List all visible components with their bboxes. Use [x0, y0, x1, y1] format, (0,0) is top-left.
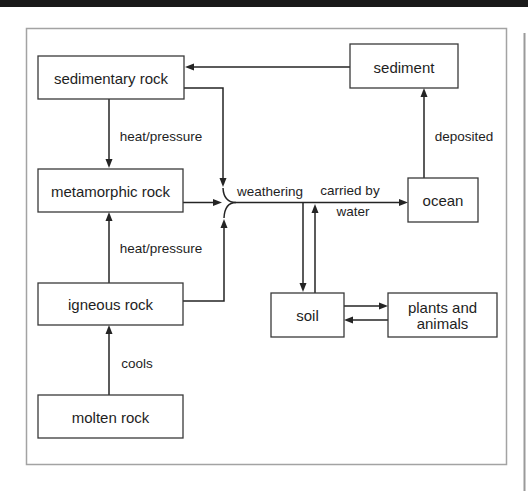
node-soil-label: soil — [296, 307, 319, 324]
arrow-plants-to-soil — [344, 317, 388, 324]
rock-cycle-diagram: heat/pressure heat/pressure cools weathe… — [0, 0, 528, 491]
node-soil: soil — [271, 293, 344, 337]
arrow-head — [106, 159, 113, 168]
arrow-head — [221, 219, 228, 228]
node-igneous-rock-label: igneous rock — [68, 296, 154, 313]
node-sedimentary-rock: sedimentary rock — [38, 56, 184, 99]
edge-label-carried-by: carried by — [320, 183, 380, 198]
node-igneous-rock: igneous rock — [38, 283, 183, 325]
node-metamorphic-rock-label: metamorphic rock — [51, 183, 171, 200]
node-molten-rock-label: molten rock — [72, 409, 150, 426]
edge-label-heat-pressure-top: heat/pressure — [120, 129, 203, 144]
arrow-head — [379, 303, 388, 310]
arrow-line — [183, 228, 224, 301]
arrow-head — [312, 204, 319, 213]
edge-label-weathering: weathering — [236, 184, 303, 199]
arrow-sedimentary-to-metamorphic — [106, 99, 113, 168]
rock-cycle-diagram-page: heat/pressure heat/pressure cools weathe… — [0, 0, 528, 491]
node-sedimentary-rock-label: sedimentary rock — [54, 70, 169, 87]
node-ocean: ocean — [408, 178, 478, 222]
arrow-weathering-to-soil — [300, 203, 307, 292]
junction-curve-top — [223, 188, 236, 203]
node-sediment: sediment — [350, 44, 458, 88]
arrow-metamorphic-to-weathering — [183, 199, 222, 206]
arrow-sedimentary-to-weathering — [184, 88, 236, 203]
arrow-head — [344, 317, 353, 324]
node-plants-and-animals-label-line1: plants and — [408, 299, 477, 316]
arrow-head — [300, 283, 307, 292]
node-ocean-label: ocean — [423, 192, 464, 209]
arrow-head — [399, 199, 408, 206]
arrow-head — [106, 325, 113, 334]
arrow-head — [213, 199, 222, 206]
arrow-head — [106, 212, 113, 221]
edge-label-heat-pressure-bottom: heat/pressure — [120, 241, 203, 256]
arrow-molten-to-igneous — [106, 325, 113, 395]
arrow-soil-to-weathering — [312, 204, 319, 293]
arrow-ocean-to-sediment — [421, 88, 428, 178]
arrow-head — [220, 178, 227, 187]
edge-label-water: water — [335, 204, 370, 219]
edge-label-cools: cools — [121, 356, 153, 371]
node-plants-and-animals: plants and animals — [388, 293, 497, 337]
node-sediment-label: sediment — [374, 59, 436, 76]
arrow-igneous-to-metamorphic — [106, 212, 113, 283]
junction-curve-bottom — [224, 203, 236, 219]
arrow-sediment-to-sedimentary-rock — [185, 64, 350, 71]
node-plants-and-animals-label-line2: animals — [417, 315, 469, 332]
arrow-head — [185, 64, 194, 71]
arrow-soil-to-plants — [344, 303, 388, 310]
node-molten-rock: molten rock — [38, 395, 183, 438]
arrow-head — [421, 88, 428, 97]
node-metamorphic-rock: metamorphic rock — [38, 169, 183, 212]
arrow-weathering-to-ocean — [236, 199, 408, 206]
edge-label-deposited: deposited — [435, 129, 494, 144]
